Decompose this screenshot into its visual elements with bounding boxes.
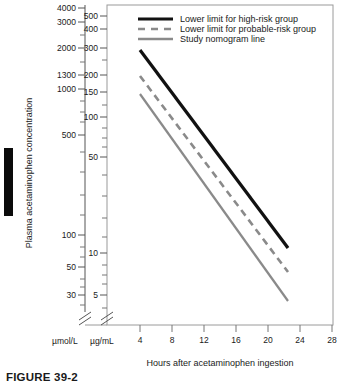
xtick-16: 16 — [228, 336, 244, 345]
axis-break-umol — [79, 312, 91, 325]
unit-label-umol: µmol/L — [52, 336, 78, 346]
series-high-risk-line — [140, 50, 288, 248]
series-nomogram-line — [140, 94, 288, 301]
unit-label-ugml: µg/mL — [90, 336, 114, 346]
ytick-ugml-400: 400 — [56, 25, 98, 34]
ytick-ugml-50: 50 — [56, 153, 98, 162]
ytick-umol-500: 500 — [28, 131, 76, 140]
xtick-12: 12 — [196, 336, 212, 345]
figure-39-2: 4000 3000 2000 1300 1000 500 100 50 30 5… — [0, 0, 349, 385]
ytick-ugml-300: 300 — [56, 44, 98, 53]
axis-minor-ticks-ugml — [102, 60, 107, 308]
xtick-4: 4 — [133, 336, 147, 345]
xtick-24: 24 — [292, 336, 308, 345]
ytick-umol-100: 100 — [28, 231, 76, 240]
xtick-28: 28 — [324, 336, 340, 345]
axis-ticks-x — [140, 325, 332, 332]
legend-label-nomogram: Study nomogram line — [180, 34, 265, 44]
ytick-ugml-150: 150 — [56, 88, 98, 97]
y-axis-label: Plasma acetaminophen concentration — [24, 78, 34, 268]
ytick-ugml-200: 200 — [56, 71, 98, 80]
legend-label-probable-risk: Lower limit for probable-risk group — [180, 24, 316, 34]
ytick-ugml-10: 10 — [56, 249, 98, 258]
axis-ticks-ugml — [100, 16, 107, 295]
ytick-ugml-100: 100 — [56, 113, 98, 122]
ytick-ugml-500: 500 — [56, 12, 98, 21]
xtick-8: 8 — [165, 336, 179, 345]
chart-canvas — [0, 0, 349, 385]
ytick-ugml-5: 5 — [56, 291, 98, 300]
ytick-umol-50: 50 — [28, 263, 76, 272]
x-axis-label: Hours after acetaminophen ingestion — [107, 358, 333, 368]
legend-label-high-risk: Lower limit for high-risk group — [180, 14, 298, 24]
figure-caption: FIGURE 39-2 — [6, 371, 78, 383]
xtick-20: 20 — [260, 336, 276, 345]
series-probable-risk-line — [140, 76, 288, 272]
